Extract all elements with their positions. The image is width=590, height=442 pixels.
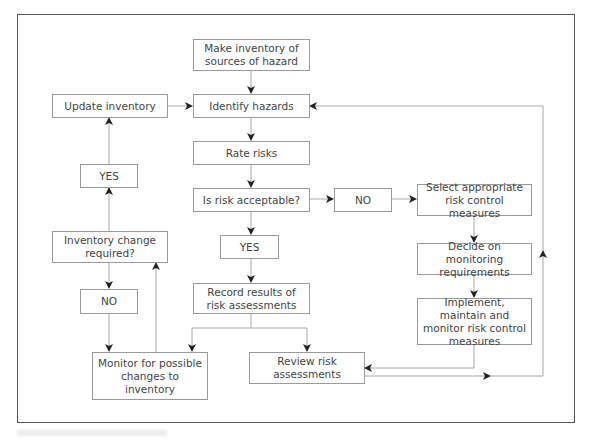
node-implement: Implement, maintain and monitor risk con… (417, 298, 532, 345)
node-yes-left: YES (80, 164, 138, 188)
node-inventory-change: Inventory change required? (52, 231, 168, 263)
node-record-results: Record results of risk assessments (193, 283, 310, 314)
node-rate-risks: Rate risks (193, 141, 310, 165)
node-monitor-changes: Monitor for possible changes to inventor… (92, 352, 208, 400)
node-select-measures: Select appropriate risk control measures (417, 184, 532, 216)
node-make-inventory: Make inventory of sources of hazard (193, 39, 310, 71)
node-review: Review risk assessments (249, 352, 365, 384)
node-decide-monitoring: Decide on monitoring requirements (417, 243, 532, 275)
figure-caption-blurred (17, 430, 167, 436)
node-identify-hazards: Identify hazards (193, 94, 310, 118)
node-no-left: NO (80, 289, 138, 314)
node-is-risk-acceptable: Is risk acceptable? (193, 188, 310, 212)
node-yes-center: YES (220, 235, 279, 259)
node-update-inventory: Update inventory (52, 94, 168, 118)
node-no-middle: NO (334, 188, 392, 212)
